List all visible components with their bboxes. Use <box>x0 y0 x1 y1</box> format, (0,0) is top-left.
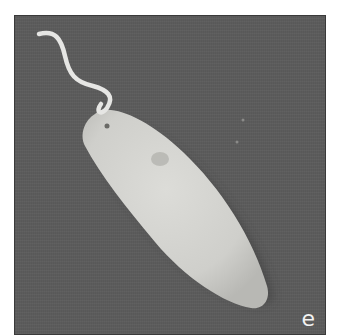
flagellar-pocket <box>105 124 110 129</box>
surface-dimple <box>151 152 169 166</box>
flagellum <box>39 33 110 112</box>
debris <box>242 119 245 122</box>
debris <box>236 141 239 144</box>
cell-illustration <box>15 16 326 335</box>
micrograph-panel: e <box>14 15 326 335</box>
panel-label: e <box>301 308 315 330</box>
cell-body <box>83 110 268 308</box>
